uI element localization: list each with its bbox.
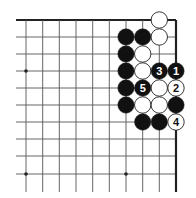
stone-disc (135, 114, 151, 130)
black-stone-1: 1 (168, 63, 184, 79)
white-stone (135, 46, 151, 62)
stone-disc (135, 97, 151, 113)
black-stone (118, 29, 134, 45)
stone-disc (151, 80, 167, 96)
black-stone (118, 46, 134, 62)
stone-disc (118, 63, 134, 79)
star-point (24, 69, 28, 73)
stone-disc (118, 29, 134, 45)
go-board: 31524 (0, 0, 196, 198)
stone-disc (118, 46, 134, 62)
move-number: 5 (140, 82, 146, 94)
white-stone (135, 63, 151, 79)
black-stone (168, 97, 184, 113)
black-stone (151, 114, 167, 130)
black-stone-3: 3 (151, 63, 167, 79)
stone-disc (151, 12, 167, 28)
white-stone (151, 12, 167, 28)
move-number: 2 (173, 82, 179, 94)
stone-disc (151, 114, 167, 130)
stone-disc (118, 97, 134, 113)
black-stone (135, 29, 151, 45)
stone-disc (135, 63, 151, 79)
white-stone (151, 80, 167, 96)
white-stone-4: 4 (168, 114, 184, 130)
stone-disc (118, 80, 134, 96)
black-stone (118, 63, 134, 79)
white-stone-2: 2 (168, 80, 184, 96)
stone-disc (151, 97, 167, 113)
white-stone (135, 97, 151, 113)
star-point (24, 172, 28, 176)
move-number: 4 (173, 116, 180, 128)
stone-disc (135, 29, 151, 45)
move-number: 3 (156, 65, 162, 77)
black-stone (118, 97, 134, 113)
stone-disc (151, 29, 167, 45)
move-number: 1 (173, 65, 179, 77)
black-stone (118, 80, 134, 96)
white-stone (151, 97, 167, 113)
white-stone (151, 29, 167, 45)
stone-disc (168, 97, 184, 113)
black-stone (135, 114, 151, 130)
star-point (124, 172, 128, 176)
black-stone-5: 5 (135, 80, 151, 96)
stones: 31524 (118, 12, 184, 130)
stone-disc (135, 46, 151, 62)
